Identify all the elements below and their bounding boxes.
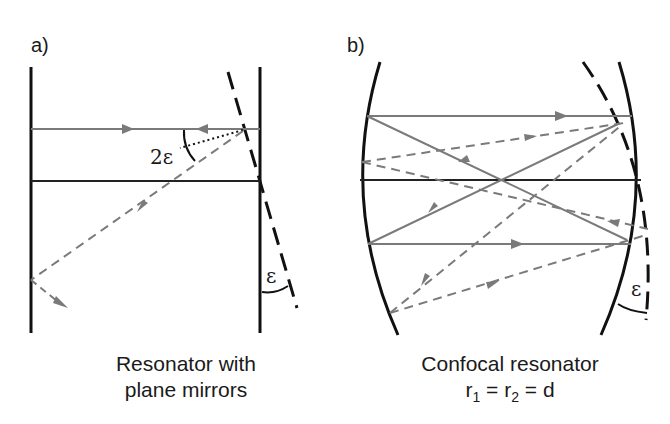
cross-ray-down	[367, 116, 627, 240]
caption-b-line2: r1 = r2 = d	[380, 377, 640, 410]
arrow-left-icon	[196, 124, 208, 134]
panel-a-label: a)	[31, 34, 49, 57]
dashed-ray-2	[362, 162, 648, 229]
panel-b-label: b)	[347, 34, 365, 57]
dashed-ray-1	[362, 123, 624, 162]
cross-ray-up	[368, 123, 620, 244]
tilted-mirror-dashed	[228, 72, 297, 308]
angle-label-2e: 2ε	[150, 145, 173, 169]
arrow-left-icon	[607, 219, 620, 227]
eq-d: = d	[519, 378, 555, 401]
arrow-right-icon	[524, 134, 537, 141]
caption-b: Confocal resonator r1 = r2 = d	[380, 351, 640, 410]
normal-dotted-line	[180, 130, 243, 148]
panel-b-confocal	[360, 62, 648, 335]
angle-label-e-a: ε	[266, 264, 276, 288]
eq-r2: = r	[480, 378, 511, 401]
dashed-ray-4	[390, 235, 646, 313]
caption-a-line2: plane mirrors	[76, 377, 296, 403]
caption-a-line1: Resonator with	[76, 351, 296, 377]
arrow-up-left-icon	[458, 155, 470, 162]
left-curved-mirror	[363, 62, 398, 335]
arrow-down-left-icon	[137, 200, 148, 212]
sub-2: 2	[511, 389, 519, 405]
arrow-escape-icon	[53, 296, 68, 308]
angle-arc-e	[618, 304, 647, 313]
caption-b-line1: Confocal resonator	[380, 351, 640, 377]
arrow-right-icon	[486, 281, 499, 289]
arrow-right-icon	[555, 111, 568, 121]
arrow-right-icon	[122, 124, 134, 134]
arrow-right-icon	[511, 239, 524, 249]
caption-a: Resonator with plane mirrors	[76, 351, 296, 403]
panel-a-plane-mirrors	[31, 67, 297, 333]
angle-label-e-b: ε	[631, 277, 641, 301]
reflected-ray-dashed	[31, 131, 243, 280]
